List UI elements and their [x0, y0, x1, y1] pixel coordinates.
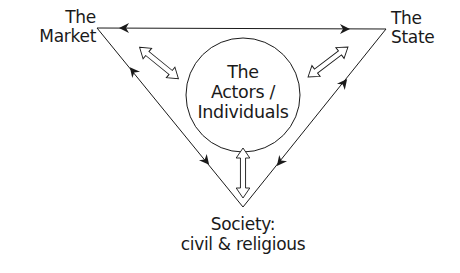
market-line2: Market [4, 27, 96, 46]
actors-line1: The [186, 62, 300, 82]
node-actors-label: The Actors / Individuals [186, 62, 300, 122]
node-society-label: Society: civil & religious [130, 214, 356, 254]
actors-line3: Individuals [186, 102, 300, 122]
society-line2: civil & religious [130, 234, 356, 254]
node-market-label: The Market [4, 8, 96, 46]
market-line1: The [4, 8, 96, 27]
state-line2: State [391, 28, 457, 47]
double-arrow-actors-state-icon [304, 42, 352, 83]
node-state-label: The State [391, 9, 457, 47]
actors-line2: Actors / [186, 82, 300, 102]
double-arrow-actors-market-icon [135, 42, 182, 84]
double-arrow-actors-society-icon [236, 148, 250, 198]
state-line1: The [391, 9, 457, 28]
society-line1: Society: [130, 214, 356, 234]
